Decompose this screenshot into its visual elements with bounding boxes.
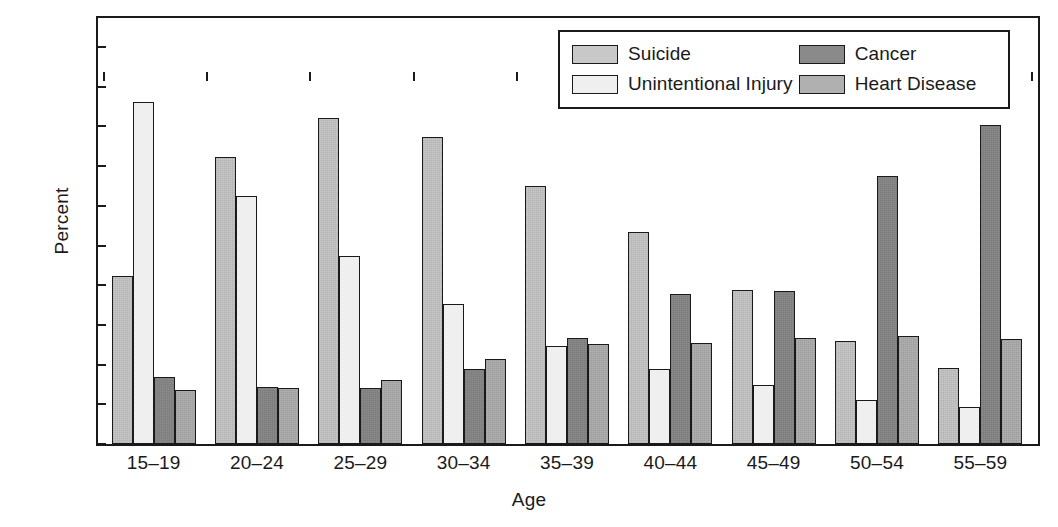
legend-entry: Unintentional Injury xyxy=(572,73,793,95)
x-tick-label: 25–29 xyxy=(300,452,420,474)
y-tick-mark xyxy=(96,245,106,247)
bar xyxy=(670,294,691,444)
bar xyxy=(112,276,133,444)
bar xyxy=(732,290,753,444)
bar xyxy=(835,341,856,444)
x-tick-label: 40–44 xyxy=(610,452,730,474)
x-tick-mark xyxy=(516,72,518,81)
bar xyxy=(628,232,649,444)
legend-label: Heart Disease xyxy=(855,73,977,95)
legend-swatch xyxy=(572,75,618,94)
bar xyxy=(588,344,609,444)
bar xyxy=(154,377,175,444)
bar xyxy=(877,176,898,444)
y-axis-title: Percent xyxy=(51,141,73,301)
bar xyxy=(795,338,816,444)
y-tick-mark xyxy=(96,46,106,48)
x-tick-label: 50–54 xyxy=(817,452,937,474)
x-tick-mark xyxy=(1031,72,1033,81)
y-tick-mark xyxy=(96,443,106,445)
bar xyxy=(938,368,959,444)
y-tick-mark xyxy=(96,284,106,286)
bar xyxy=(856,400,877,444)
bar xyxy=(464,369,485,444)
y-tick-mark xyxy=(96,324,106,326)
bar xyxy=(567,338,588,444)
bar xyxy=(774,291,795,444)
y-tick-mark xyxy=(96,125,106,127)
y-tick-mark xyxy=(96,403,106,405)
bar xyxy=(422,137,443,444)
bar-chart-figure: Percent 05101520253035404550 15–1920–242… xyxy=(0,0,1058,527)
x-tick-label: 45–49 xyxy=(714,452,834,474)
bar xyxy=(546,346,567,444)
legend-swatch xyxy=(572,45,618,64)
bar xyxy=(691,343,712,444)
y-tick-mark xyxy=(96,165,106,167)
y-tick-mark xyxy=(96,86,106,88)
bar xyxy=(485,359,506,444)
bar xyxy=(339,256,360,444)
bar xyxy=(215,157,236,444)
bar xyxy=(236,196,257,444)
legend-label: Unintentional Injury xyxy=(628,73,793,95)
legend-label: Suicide xyxy=(628,43,691,65)
legend-swatch xyxy=(799,45,845,64)
x-tick-label: 15–19 xyxy=(94,452,214,474)
bar xyxy=(133,102,154,444)
legend-label: Cancer xyxy=(855,43,917,65)
x-tick-label: 35–39 xyxy=(507,452,627,474)
bar xyxy=(649,369,670,444)
x-tick-mark xyxy=(103,72,105,81)
x-axis-title: Age xyxy=(0,489,1058,511)
bar xyxy=(443,304,464,444)
bar xyxy=(753,385,774,444)
bar xyxy=(175,390,196,444)
y-tick-mark xyxy=(96,364,106,366)
legend-entry: Heart Disease xyxy=(799,73,998,95)
bar xyxy=(360,388,381,444)
legend-swatch xyxy=(799,75,845,94)
bar xyxy=(278,388,299,444)
bar xyxy=(898,336,919,444)
bar xyxy=(318,118,339,444)
legend-entry: Suicide xyxy=(572,43,793,65)
x-tick-mark xyxy=(206,72,208,81)
x-tick-label: 55–59 xyxy=(920,452,1040,474)
chart-legend: SuicideCancerUnintentional InjuryHeart D… xyxy=(558,30,1010,109)
bar xyxy=(381,380,402,444)
x-tick-label: 20–24 xyxy=(197,452,317,474)
legend-entry: Cancer xyxy=(799,43,998,65)
bar xyxy=(257,387,278,444)
bar xyxy=(980,125,1001,444)
bar xyxy=(525,186,546,444)
bar xyxy=(959,407,980,444)
x-tick-mark xyxy=(309,72,311,81)
x-tick-label: 30–34 xyxy=(404,452,524,474)
x-tick-mark xyxy=(413,72,415,81)
y-tick-mark xyxy=(96,205,106,207)
bar xyxy=(1001,339,1022,444)
